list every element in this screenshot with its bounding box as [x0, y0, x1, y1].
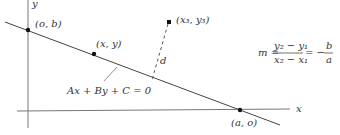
slope-b: b	[326, 40, 332, 51]
y-axis-label: y	[31, 0, 38, 9]
slope-formula: m = y₂ − y₁ x₂ − x₁ = − b a	[258, 40, 333, 65]
point-x-intercept	[238, 108, 242, 112]
distance-dashed-line	[152, 24, 168, 80]
equation-leader-line	[104, 67, 117, 81]
slope-numerator: y₂ − y₁	[273, 40, 308, 51]
line-equation: Ax + By + C = 0	[66, 85, 152, 96]
point-y-intercept	[26, 28, 30, 32]
slope-denominator: x₂ − x₁	[274, 54, 308, 65]
x-axis-label: x	[296, 103, 302, 114]
general-point-label: (x, y)	[96, 38, 122, 49]
line-diagram: y x (o, b) (x, y) (x₃, y₃) (a, o) d Ax +…	[0, 0, 340, 135]
y-intercept-label: (o, b)	[35, 18, 62, 29]
slope-equals-neg: = −	[305, 47, 325, 58]
x-axis	[17, 109, 290, 111]
point-general	[92, 52, 96, 56]
point-external	[167, 20, 171, 24]
slope-a: a	[326, 54, 332, 65]
x-intercept-label: (a, o)	[231, 117, 257, 128]
external-point-label: (x₃, y₃)	[176, 14, 210, 25]
distance-label: d	[160, 55, 166, 66]
